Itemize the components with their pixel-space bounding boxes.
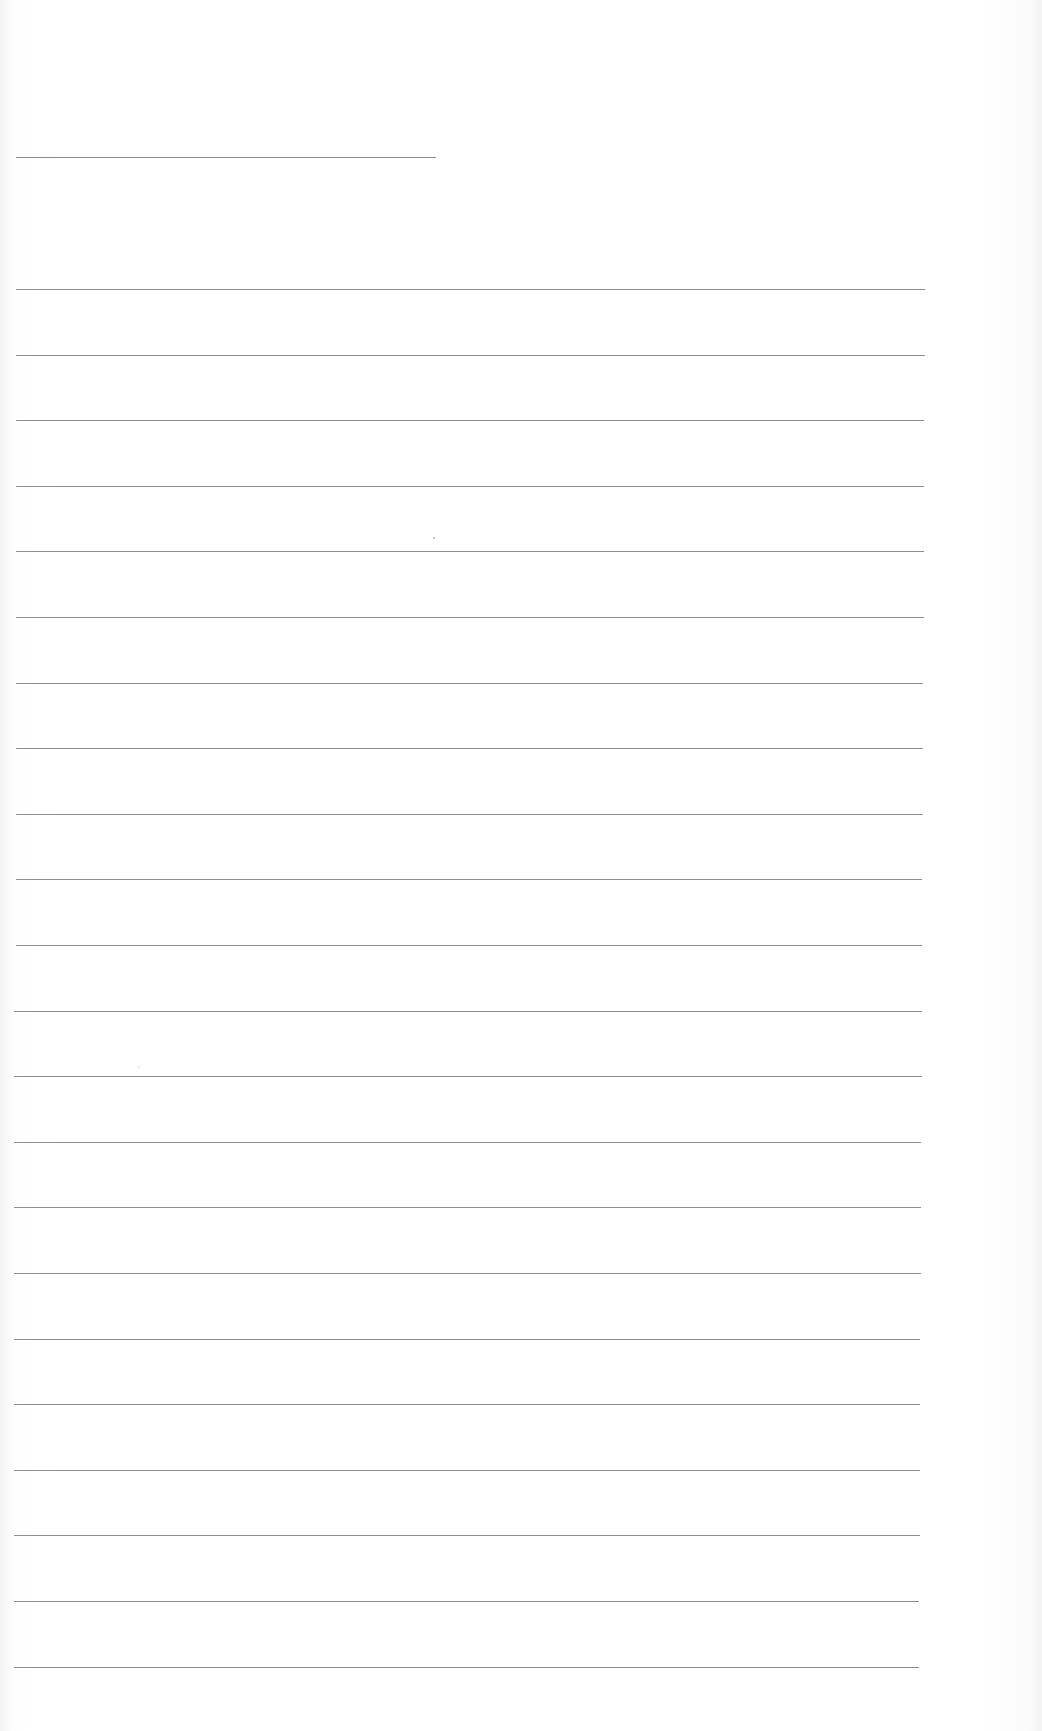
ruled-line — [16, 289, 925, 291]
ruled-line — [16, 683, 923, 685]
ruled-line — [14, 1076, 922, 1078]
ruled-line — [14, 1667, 919, 1669]
ruled-line — [14, 1470, 920, 1472]
ruled-line — [16, 486, 924, 488]
ruled-line — [16, 879, 922, 881]
ruled-lines — [0, 0, 1042, 1731]
ruled-line — [16, 814, 923, 816]
ruled-line — [14, 1011, 922, 1013]
ruled-line — [16, 420, 924, 422]
scan-speck — [433, 537, 435, 539]
ruled-line — [16, 748, 923, 750]
ruled-line — [16, 945, 922, 947]
ruled-line — [16, 355, 925, 357]
ruled-line — [14, 1601, 919, 1603]
ruled-line — [14, 1273, 921, 1275]
ruled-line — [14, 1142, 921, 1144]
ruled-line — [14, 1404, 920, 1406]
ruled-line — [14, 1207, 921, 1209]
ruled-line — [14, 1535, 920, 1537]
ruled-line — [16, 551, 924, 553]
lined-paper-page — [0, 0, 1042, 1731]
scan-speck — [138, 1066, 140, 1068]
ruled-line — [16, 617, 924, 619]
ruled-line — [14, 1339, 920, 1341]
